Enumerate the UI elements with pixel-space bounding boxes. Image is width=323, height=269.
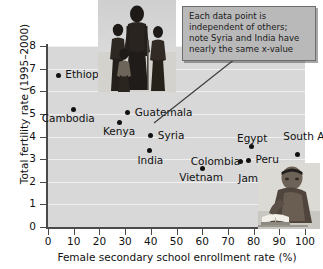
point-label-egypt: Egypt (237, 133, 267, 144)
point-label-colombia: Colombia (191, 156, 240, 167)
y-tick-0 (40, 227, 47, 228)
point-label-syria: Syria (158, 130, 185, 141)
y-tick-4 (40, 137, 47, 138)
family-photo (98, 0, 176, 92)
y-tick-label-7: 7 (14, 63, 36, 74)
reader-photo (258, 163, 320, 229)
data-point-egypt (249, 144, 254, 149)
point-label-guatemala: Guatemala (135, 107, 193, 118)
y-tick-label-5: 5 (14, 108, 36, 119)
y-tick-label-6: 6 (14, 85, 36, 96)
x-tick-label-30: 30 (112, 236, 138, 247)
x-tick-label-0: 0 (35, 236, 61, 247)
data-point-peru (246, 158, 251, 163)
annotation-line-3: note Syria and India have (189, 33, 310, 44)
annotation-line-1: Each data point is (189, 11, 310, 22)
x-tick-label-40: 40 (138, 236, 164, 247)
data-point-south-africa (295, 152, 300, 157)
x-tick-label-20: 20 (86, 236, 112, 247)
y-tick-3 (40, 159, 47, 160)
annotation-line-4: nearly the same x-value (189, 44, 310, 55)
y-tick-7 (40, 69, 47, 70)
data-point-ethiopia (56, 73, 61, 78)
x-tick-label-100: 100 (292, 236, 318, 247)
y-tick-2 (40, 182, 47, 183)
point-label-cambodia: Cambodia (42, 113, 95, 124)
y-tick-label-8: 8 (14, 40, 36, 51)
y-tick-label-2: 2 (14, 176, 36, 187)
fertility-enrollment-scatter-figure: Each data point is independent of others… (0, 0, 323, 269)
data-point-vietnam (200, 166, 205, 171)
x-tick-label-10: 10 (61, 236, 87, 247)
y-tick-1 (40, 204, 47, 205)
x-tick-label-50: 50 (164, 236, 190, 247)
x-tick-label-70: 70 (215, 236, 241, 247)
data-point-india (147, 148, 152, 153)
y-tick-label-4: 4 (14, 131, 36, 142)
annotation-line-2: independent of others; (189, 22, 310, 33)
point-label-kenya: Kenya (103, 126, 135, 137)
x-tick-label-90: 90 (266, 236, 292, 247)
x-tick-label-60: 60 (189, 236, 215, 247)
y-tick-8 (40, 46, 47, 47)
y-tick-label-0: 0 (14, 221, 36, 232)
x-axis-title: Female secondary school enrollment rate … (38, 251, 316, 263)
y-tick-6 (40, 91, 47, 92)
annotation-callout: Each data point is independent of others… (182, 6, 316, 61)
x-tick-label-80: 80 (241, 236, 267, 247)
y-tick-label-3: 3 (14, 153, 36, 164)
y-tick-label-1: 1 (14, 198, 36, 209)
gridline-y-6 (48, 91, 305, 92)
point-label-india: India (138, 155, 164, 166)
point-label-south-africa: South Africa (283, 131, 323, 142)
point-label-vietnam: Vietnam (179, 172, 223, 183)
